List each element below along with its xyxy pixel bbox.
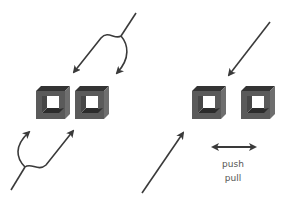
arrow-top-down-icon (229, 22, 270, 75)
left-box-1 (36, 86, 70, 119)
arrow-bottom-up-icon (142, 133, 183, 193)
right-box-1 (192, 86, 226, 119)
diagram-canvas: push pull (0, 0, 291, 203)
pull-label: pull (213, 173, 253, 183)
right-box-2 (241, 86, 275, 119)
split-arrow-top-icon (74, 13, 136, 73)
left-box-2 (75, 86, 109, 119)
split-arrow-bottom-icon (11, 131, 73, 190)
push-label: push (213, 159, 253, 169)
